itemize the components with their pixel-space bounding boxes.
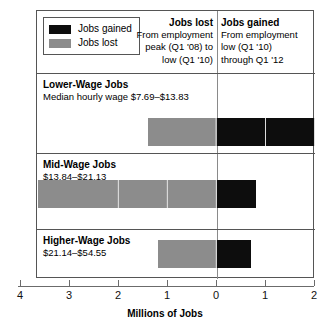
- header-jobs-gained: Jobs gained From employment low (Q1 '10)…: [221, 17, 311, 66]
- x-axis-tick-0-4: [216, 280, 217, 286]
- jobs-by-wage-chart: Jobs gained Jobs lost Jobs lost From emp…: [0, 0, 330, 330]
- x-axis-tick-3-1: [69, 280, 70, 286]
- bar-jobs-gained-lower-wage: [217, 118, 315, 146]
- x-axis-tick-1-3: [167, 280, 168, 286]
- header-jobs-gained-title: Jobs gained: [221, 17, 311, 29]
- row-subtitle-higher-wage: $21.14–$54.55: [43, 247, 106, 258]
- row-title-lower-wage: Lower-Wage Jobs: [43, 79, 189, 91]
- legend-label-jobs-gained: Jobs gained: [78, 23, 132, 35]
- x-axis-tick-label-0: 4: [5, 289, 35, 301]
- header-jobs-lost: Jobs lost From employment peak (Q1 '08) …: [133, 17, 213, 66]
- legend-item-jobs-gained: Jobs gained: [49, 22, 132, 36]
- bar-jobs-gained-higher-wage: [217, 240, 251, 268]
- jobs-lost-swatch: [49, 39, 71, 48]
- jobs-gained-swatch: [49, 25, 71, 34]
- x-axis-tick-label-1: 3: [54, 289, 84, 301]
- header-jobs-gained-line1: From employment: [221, 29, 298, 40]
- x-axis-title: Millions of Jobs: [0, 308, 330, 319]
- row-title-mid-wage: Mid-Wage Jobs: [43, 159, 116, 171]
- x-axis-tick-2-6: [314, 280, 315, 286]
- header-jobs-lost-line2: peak (Q1 '08) to: [145, 41, 213, 52]
- bar-jobs-lost-mid-wage: [38, 180, 217, 208]
- x-axis-tick-4-0: [20, 280, 21, 286]
- bar-jobs-lost-higher-wage: [158, 240, 217, 268]
- chart-panel: Jobs gained Jobs lost Jobs lost From emp…: [36, 10, 314, 278]
- x-axis-tick-2-2: [118, 280, 119, 286]
- header-jobs-lost-line1: From employment: [136, 29, 213, 40]
- header-jobs-lost-line3: low (Q1 '10): [162, 54, 213, 65]
- row-title-higher-wage: Higher-Wage Jobs: [43, 235, 130, 247]
- chart-row-higher-wage: Higher-Wage Jobs $21.14–$54.55: [37, 229, 315, 279]
- header-jobs-gained-line3: through Q1 '12: [221, 54, 284, 65]
- bar-jobs-lost-lower-wage: [148, 118, 217, 146]
- x-axis-tick-label-3: 1: [152, 289, 182, 301]
- header-jobs-gained-line2: low (Q1 '10): [221, 41, 272, 52]
- x-axis-tick-label-5: 1: [250, 289, 280, 301]
- chart-header: Jobs gained Jobs lost Jobs lost From emp…: [37, 11, 315, 73]
- row-label-lower-wage: Lower-Wage Jobs Median hourly wage $7.69…: [43, 79, 189, 104]
- x-axis-tick-1-5: [265, 280, 266, 286]
- chart-row-mid-wage: Mid-Wage Jobs $13.84–$21.13: [37, 153, 315, 229]
- legend: Jobs gained Jobs lost: [43, 17, 140, 55]
- x-axis-tick-label-2: 2: [103, 289, 133, 301]
- row-label-higher-wage: Higher-Wage Jobs $21.14–$54.55: [43, 235, 130, 260]
- legend-label-jobs-lost: Jobs lost: [78, 37, 117, 49]
- bar-jobs-gained-mid-wage: [217, 180, 256, 208]
- chart-row-lower-wage: Lower-Wage Jobs Median hourly wage $7.69…: [37, 73, 315, 153]
- row-subtitle-lower-wage: Median hourly wage $7.69–$13.83: [43, 91, 189, 102]
- x-axis-line: [18, 286, 314, 287]
- x-axis-tick-label-6: 2: [299, 289, 329, 301]
- legend-item-jobs-lost: Jobs lost: [49, 36, 132, 50]
- x-axis-tick-label-4: 0: [201, 289, 231, 301]
- header-jobs-lost-title: Jobs lost: [133, 17, 213, 29]
